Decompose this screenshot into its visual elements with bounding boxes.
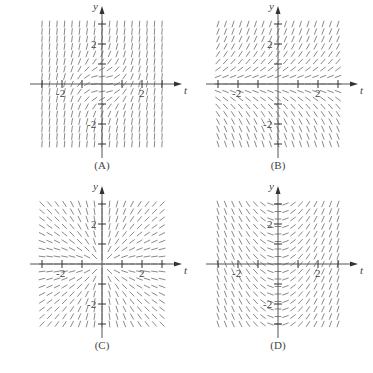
slope-segment (299, 299, 303, 303)
slope-segment (116, 216, 118, 222)
slope-segment (63, 314, 66, 319)
slope-segment (262, 141, 264, 147)
slope-segment (224, 224, 226, 230)
slope-segment (268, 278, 274, 280)
slope-segment (285, 21, 287, 27)
slope-segment (268, 323, 274, 325)
slope-segment (299, 29, 301, 35)
slope-segment (62, 240, 67, 243)
slope-segment (138, 209, 141, 214)
slope-segment (231, 52, 234, 57)
slope-segment (299, 322, 303, 326)
slope-segment (299, 307, 303, 311)
slope-segment (145, 314, 149, 319)
slope-segment (49, 59, 50, 65)
slope-segment (138, 321, 141, 326)
slope-segment (291, 202, 296, 206)
slope-segment (152, 314, 156, 318)
slope-segment (299, 284, 303, 288)
slope-segment (137, 292, 142, 296)
slope-segment (329, 216, 331, 222)
slope-segment (268, 315, 274, 317)
slope-segment (247, 126, 249, 131)
slope-segment (283, 308, 289, 310)
slope-segment (217, 224, 219, 230)
slope-segment (224, 29, 226, 35)
slope-segment (224, 254, 226, 260)
slope-segment (217, 119, 220, 124)
slope-segment (114, 270, 119, 273)
slope-segment (253, 97, 258, 101)
slope-segment (329, 44, 332, 49)
slope-segment (84, 255, 89, 258)
slope-segment (147, 104, 148, 110)
slope-segment (337, 224, 339, 230)
slope-segment (246, 209, 249, 214)
slope-segment (322, 314, 324, 319)
slope-segment (254, 314, 258, 318)
slope-segment (64, 36, 65, 42)
slope-segment (314, 254, 317, 259)
slope-segment (254, 52, 257, 57)
slope-segment (283, 248, 289, 250)
slope-segment (254, 209, 258, 213)
slope-segment (314, 239, 317, 244)
slope-segment (322, 321, 324, 326)
y-axis-arrow-icon (100, 186, 105, 194)
slope-segment (94, 134, 95, 140)
slope-segment (109, 306, 110, 312)
slope-segment (232, 246, 234, 251)
slope-segment (261, 285, 266, 289)
slope-segment (116, 314, 118, 320)
slope-segment (261, 255, 266, 259)
slope-segment (85, 90, 90, 93)
slope-segment (159, 278, 165, 279)
slope-segment (154, 59, 155, 65)
slope-segment (108, 111, 110, 117)
slope-segment (239, 209, 242, 214)
slope-segment (78, 96, 81, 101)
slope-segment (122, 247, 127, 250)
slope-segment (145, 232, 150, 235)
slope-segment (72, 141, 73, 147)
slope-segment (93, 246, 96, 251)
slope-segment (322, 119, 325, 124)
slope-segment (49, 51, 50, 57)
slope-segment (123, 89, 126, 94)
slope-segment (322, 254, 324, 259)
slope-segment (42, 111, 43, 117)
slope-segment (109, 291, 110, 297)
slope-segment (299, 112, 302, 117)
slope-segment (116, 126, 117, 132)
slope-segment (306, 239, 309, 244)
slope-segment (131, 89, 133, 95)
slope-segment (72, 36, 73, 42)
slope-segment (49, 111, 50, 117)
slope-segment (63, 307, 67, 312)
slope-segment (160, 315, 165, 319)
slope-segment (78, 232, 82, 237)
slope-segment (254, 322, 258, 326)
slope-segment (269, 112, 272, 117)
slope-segment (314, 231, 317, 236)
slope-segment (335, 75, 341, 77)
slope-segment (239, 44, 242, 49)
slope-segment (306, 322, 309, 327)
slope-segment (47, 307, 52, 311)
slope-segment (329, 119, 332, 124)
slope-segment (86, 224, 88, 230)
slope-segment (115, 67, 119, 71)
slope-segment (54, 285, 59, 288)
slope-segment (217, 134, 219, 140)
slope-segment (131, 59, 133, 65)
slope-segment (337, 36, 339, 41)
slope-segment (131, 209, 134, 214)
t-axis-arrow-icon (174, 262, 182, 267)
slope-segment (42, 96, 43, 102)
slope-segment (56, 74, 57, 80)
slope-segment (322, 209, 324, 214)
slope-segment (268, 203, 274, 205)
slope-segment (329, 306, 331, 312)
slope-segment (92, 76, 98, 78)
slope-segment (86, 51, 88, 57)
